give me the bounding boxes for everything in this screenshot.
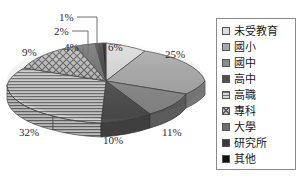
chart-legend: 未受教育 國小 國中 高中 高職 專科 大學 研究所 [216,18,296,170]
legend-swatch-icon [222,139,230,147]
data-label-gao-zhi: 32% [19,126,39,138]
legend-item-zhuan-ke[interactable]: 專科 [222,103,295,119]
data-label-yan-jiu-suo: 2% [54,25,69,37]
data-label-wei-shou-jiao-yu: 6% [108,41,123,53]
data-label-guo-xiao: 25% [165,48,185,60]
legend-swatch-icon [222,75,230,83]
pie-plot-area: 1% 2% 4% 6% 25% 9% 32% 10% 11% [0,0,212,176]
legend-item-label: 大學 [234,122,256,133]
data-label-da-xue: 4% [64,41,79,53]
legend-item-qi-ta[interactable]: 其他 [222,151,295,167]
legend-swatch-icon [222,91,230,99]
legend-item-da-xue[interactable]: 大學 [222,119,295,135]
legend-swatch-icon [222,107,230,115]
legend-swatch-icon [222,43,230,51]
legend-item-label: 國中 [234,58,256,69]
legend-item-label: 其他 [234,154,256,165]
legend-swatch-icon [222,155,230,163]
legend-swatch-icon [222,123,230,131]
legend-item-yan-jiu-suo[interactable]: 研究所 [222,135,295,151]
legend-item-guo-xiao[interactable]: 國小 [222,39,295,55]
legend-item-label: 高職 [234,90,256,101]
legend-swatch-icon [222,59,230,67]
legend-item-label: 未受教育 [234,26,278,37]
legend-swatch-icon [222,27,230,35]
legend-item-label: 專科 [234,106,256,117]
data-label-gao-zhong: 10% [103,134,123,146]
legend-item-label: 研究所 [234,138,267,149]
pie-graphic [0,0,212,176]
pie-chart: 1% 2% 4% 6% 25% 9% 32% 10% 11% 未受教育 國小 國… [0,0,302,176]
legend-item-gao-zhi[interactable]: 高職 [222,87,295,103]
legend-item-wei-shou-jiao-yu[interactable]: 未受教育 [222,23,295,39]
data-label-zhuan-ke: 9% [22,46,37,58]
data-label-qi-ta: 1% [59,11,74,23]
legend-item-label: 高中 [234,74,256,85]
legend-item-label: 國小 [234,42,256,53]
legend-item-gao-zhong[interactable]: 高中 [222,71,295,87]
legend-item-guo-zhong[interactable]: 國中 [222,55,295,71]
data-label-guo-zhong: 11% [162,126,182,138]
